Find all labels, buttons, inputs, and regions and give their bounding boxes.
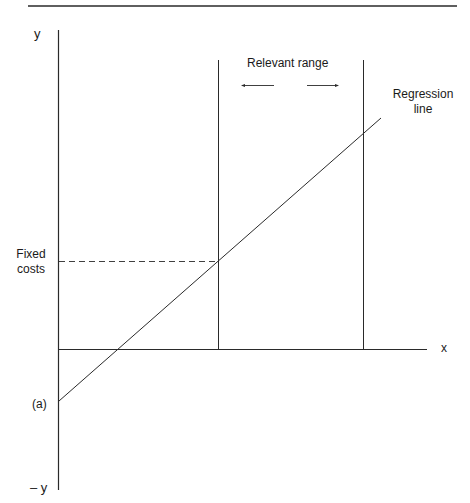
negative-y-axis-label: – y [30,480,47,495]
regression-line-label-line1: Regression [383,87,463,102]
y-axis-label: y [34,26,41,41]
fixed-costs-label-line2: costs [12,262,50,277]
intercept-label: (a) [32,397,47,412]
relevant-range-label: Relevant range [247,56,328,71]
right-arrow [307,84,339,87]
fixed-costs-label-line1: Fixed [12,247,50,262]
regression-line [59,118,381,401]
fixed-costs-label: Fixed costs [12,247,50,277]
left-arrow [241,84,274,87]
x-axis-label: x [441,341,447,356]
regression-line-label-line2: line [383,102,463,117]
regression-line-label: Regression line [383,87,463,117]
regression-diagram [0,0,470,503]
